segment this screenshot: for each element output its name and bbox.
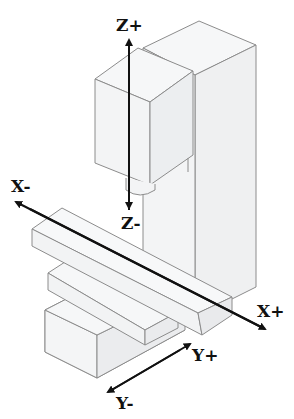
machine-drawing [0, 0, 294, 419]
y-minus-label: Y- [116, 395, 133, 412]
milling-axes-diagram: Z+ Z- X- X+ Y+ Y- [0, 0, 294, 419]
spindle-head [95, 48, 193, 185]
z-plus-label: Z+ [116, 17, 143, 34]
x-plus-label: X+ [257, 303, 284, 320]
z-minus-label: Z- [121, 215, 140, 232]
x-minus-label: X- [11, 178, 31, 195]
y-plus-label: Y+ [192, 347, 218, 364]
